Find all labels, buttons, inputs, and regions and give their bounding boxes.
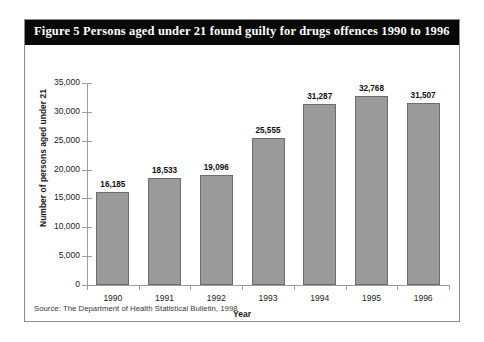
source-note: Source: The Department of Health Statist… (34, 304, 238, 313)
y-tick-mark (82, 141, 92, 142)
x-tick-mark (449, 285, 450, 290)
bar (148, 178, 181, 285)
bar (96, 192, 129, 285)
x-tick-label: 1996 (393, 293, 453, 303)
y-tick-label: 15,000 (54, 192, 80, 202)
chart-plot-area: Number of persons aged under 21 05,00010… (25, 45, 459, 323)
bar-value-label: 16,185 (83, 180, 143, 189)
y-tick-label: 0 (75, 279, 80, 289)
y-tick-label: 30,000 (54, 106, 80, 116)
y-tick-mark (82, 170, 92, 171)
y-tick-mark (82, 83, 92, 84)
x-tick-mark (397, 285, 398, 290)
y-tick-mark (82, 198, 92, 199)
x-tick-mark (242, 285, 243, 290)
y-tick-label: 35,000 (54, 77, 80, 87)
x-tick-mark (190, 285, 191, 290)
bar-value-label: 25,555 (238, 126, 298, 135)
y-tick-label: 20,000 (54, 164, 80, 174)
y-tick-label: 10,000 (54, 221, 80, 231)
y-tick-label: 5,000 (59, 250, 80, 260)
bar (407, 103, 440, 285)
bar (252, 138, 285, 285)
x-axis-line (87, 285, 449, 286)
bar (303, 104, 336, 285)
y-tick-mark (82, 256, 92, 257)
bar-value-label: 31,287 (290, 92, 350, 101)
figure-panel: Figure 5 Persons aged under 21 found gui… (24, 19, 460, 322)
y-tick-label: 25,000 (54, 135, 80, 145)
bar-value-label: 19,096 (186, 163, 246, 172)
bar-value-label: 31,507 (393, 91, 453, 100)
x-tick-mark (294, 285, 295, 290)
axis-area: 05,00010,00015,00020,00025,00030,00035,0… (87, 45, 449, 323)
figure-title-bar: Figure 5 Persons aged under 21 found gui… (25, 20, 459, 45)
x-tick-mark (346, 285, 347, 290)
y-tick-mark (82, 227, 92, 228)
x-tick-mark (139, 285, 140, 290)
bar (200, 175, 233, 285)
x-tick-mark (87, 285, 88, 290)
bar (355, 96, 388, 285)
y-tick-mark (82, 112, 92, 113)
y-axis-title: Number of persons aged under 21 (38, 78, 48, 238)
figure-title: Figure 5 Persons aged under 21 found gui… (34, 24, 450, 39)
